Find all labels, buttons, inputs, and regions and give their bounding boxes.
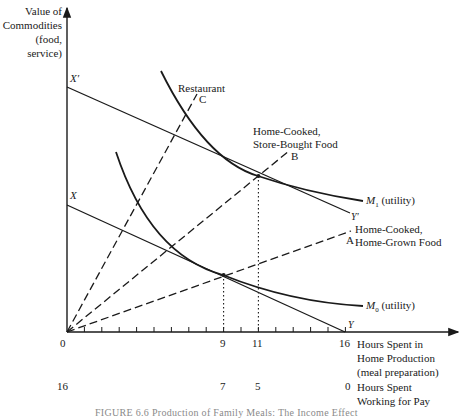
label-c: C <box>199 93 206 106</box>
tick-label-11: 11 <box>252 337 263 350</box>
label-a: A <box>346 234 354 247</box>
label-b: B <box>291 150 298 163</box>
m1-symbol: M <box>366 194 375 206</box>
label-a-line2: Home-Grown Food <box>355 236 441 249</box>
y-axis-label-line: Commodities <box>3 18 62 32</box>
ray-restaurant-c <box>67 94 197 332</box>
y-axis-label: Value of Commodities (food, service) <box>3 4 62 60</box>
work-tick-16: 16 <box>57 380 68 393</box>
y-axis-label-line: Value of <box>3 4 62 18</box>
tick-label-16: 16 <box>339 337 350 350</box>
x-axis-label-line: Hours Spent in <box>357 337 439 351</box>
figure-caption: FIGURE 6.6 Production of Family Meals: T… <box>95 407 358 418</box>
x-axis-ticks <box>84 327 345 332</box>
y-axis-label-line: (food, <box>3 32 62 46</box>
work-axis-label-line: Hours Spent <box>357 380 430 394</box>
tick-label-0: 0 <box>60 337 66 350</box>
work-tick-0: 0 <box>345 380 351 393</box>
label-y: Y <box>348 318 354 331</box>
tangency-point-m1 <box>256 174 260 178</box>
label-x-prime: X′ <box>70 72 79 85</box>
ray-store-bought-b <box>67 151 289 332</box>
m1-suffix: (utility) <box>379 194 415 206</box>
work-tick-5: 5 <box>255 380 261 393</box>
label-m1: M1 (utility) <box>366 194 415 212</box>
tick-label-9: 9 <box>220 337 226 350</box>
work-axis-label: Hours Spent Working for Pay <box>357 380 430 408</box>
y-axis-label-line: service) <box>3 46 62 60</box>
x-axis-label-line: (meal preparation) <box>357 365 439 379</box>
x-axis-label-line: Home Production <box>357 351 439 365</box>
m0-symbol: M <box>366 299 375 311</box>
x-axis-label: Hours Spent in Home Production (meal pre… <box>357 337 439 379</box>
label-a-line1: Home-Cooked, <box>355 223 423 236</box>
work-axis-label-line: Working for Pay <box>357 394 430 408</box>
label-b-line1: Home-Cooked, <box>253 125 321 138</box>
tangency-point-m0 <box>222 273 226 277</box>
label-y-prime: Y′ <box>351 210 359 223</box>
label-m0: M0 (utility) <box>366 299 415 317</box>
work-tick-7: 7 <box>220 380 226 393</box>
m0-suffix: (utility) <box>379 299 415 311</box>
ray-home-grown-a <box>67 231 351 332</box>
indifference-curve-m0 <box>116 152 363 306</box>
label-x: X <box>70 189 77 202</box>
